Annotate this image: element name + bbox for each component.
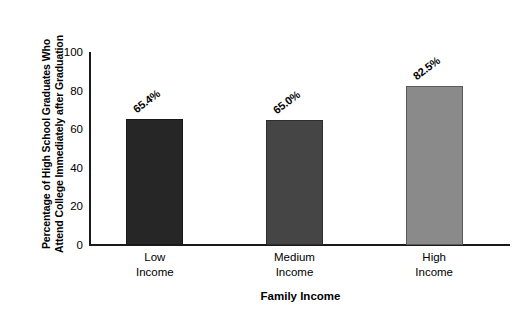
bar[interactable] <box>406 86 463 245</box>
y-axis-tick-label: 0 <box>0 239 89 251</box>
bar-value-label: 65.4% <box>131 87 162 115</box>
bar-slot: 82.5% <box>406 52 463 245</box>
bar-chart: Percentage of High School Graduates Who … <box>0 0 524 326</box>
bar[interactable] <box>126 119 183 245</box>
y-axis-tick-label: 40 <box>0 162 89 174</box>
x-axis-title: Family Income <box>91 290 510 302</box>
x-axis-category-label: LowIncome <box>85 250 225 279</box>
x-axis-category-label: HighIncome <box>364 250 504 279</box>
bar-slot: 65.0% <box>266 52 323 245</box>
bar-value-label: 82.5% <box>410 54 441 82</box>
x-axis-category-label-line: High <box>364 250 504 265</box>
y-axis-tick-label: 20 <box>0 200 89 212</box>
y-axis-tick-labels: 100806040200 <box>0 0 89 326</box>
x-axis-category-label-line: Medium <box>225 250 365 265</box>
plot-area: 65.4%65.0%82.5% <box>91 52 510 245</box>
x-axis-category-label: MediumIncome <box>225 250 365 279</box>
x-axis-category-label-line: Income <box>364 265 504 280</box>
x-axis-category-label-line: Income <box>225 265 365 280</box>
x-axis-category-labels: LowIncomeMediumIncomeHighIncome <box>91 250 510 290</box>
x-axis-category-label-line: Income <box>85 265 225 280</box>
bar-slot: 65.4% <box>126 52 183 245</box>
y-axis-tick-label: 80 <box>0 85 89 97</box>
bar-value-label: 65.0% <box>271 88 302 116</box>
x-axis-category-label-line: Low <box>85 250 225 265</box>
y-axis-tick-label: 60 <box>0 123 89 135</box>
y-axis-tick-label: 100 <box>0 46 89 58</box>
bar[interactable] <box>266 120 323 245</box>
